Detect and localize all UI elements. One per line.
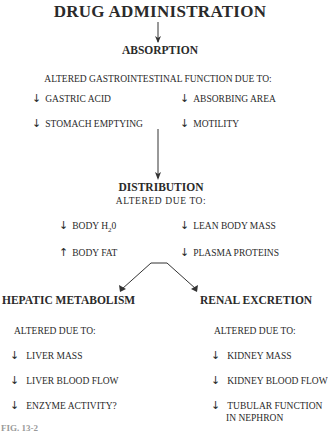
absorption-item: ↓ABSORBING AREA xyxy=(180,92,276,105)
down-arrow-icon: ↓ xyxy=(211,399,220,412)
renal-item: ↓KIDNEY BLOOD FLOW xyxy=(211,374,328,387)
renal-item: ↓TUBULAR FUNCTION xyxy=(211,399,322,412)
renal-heading: RENAL EXCRETION xyxy=(200,294,312,306)
distribution-subheading: ALTERED DUE TO: xyxy=(116,196,207,206)
diagram-title: DRUG ADMINISTRATION xyxy=(54,2,267,22)
hepatic-item: ↓LIVER MASS xyxy=(10,349,82,362)
absorption-item: ↓GASTRIC ACID xyxy=(32,92,111,105)
renal-item: ↓KIDNEY MASS xyxy=(211,349,292,362)
down-arrow-icon: ↓ xyxy=(180,117,189,130)
hepatic-item: ↓ENZYME ACTIVITY? xyxy=(10,399,117,412)
distribution-item: ↓BODY H20 xyxy=(59,219,116,234)
down-arrow-icon: ↓ xyxy=(59,219,68,232)
absorption-subheading: ALTERED GASTROINTESTINAL FUNCTION DUE TO… xyxy=(44,74,271,84)
hepatic-heading: HEPATIC METABOLISM xyxy=(2,294,135,306)
down-arrow-icon: ↓ xyxy=(32,92,41,105)
split-connector xyxy=(122,263,196,289)
down-arrow-icon: ↓ xyxy=(180,246,189,259)
down-arrow-icon: ↓ xyxy=(10,349,19,362)
renal-subheading: ALTERED DUE TO: xyxy=(214,326,296,336)
absorption-item: ↓STOMACH EMPTYING xyxy=(32,117,143,130)
distribution-item: ↓LEAN BODY MASS xyxy=(180,219,276,232)
absorption-heading: ABSORPTION xyxy=(122,44,198,56)
absorption-item: ↓MOTILITY xyxy=(180,117,239,130)
renal-item-continuation: IN NEPHRON xyxy=(226,413,283,423)
down-arrow-icon: ↓ xyxy=(180,219,189,232)
up-arrow-icon: ↑ xyxy=(59,246,68,259)
down-arrow-icon: ↓ xyxy=(10,374,19,387)
down-arrow-icon: ↓ xyxy=(211,374,220,387)
down-arrow-icon: ↓ xyxy=(10,399,19,412)
hepatic-subheading: ALTERED DUE TO: xyxy=(14,326,96,336)
distribution-heading: DISTRIBUTION xyxy=(119,181,204,193)
down-arrow-icon: ↓ xyxy=(211,349,220,362)
down-arrow-icon: ↓ xyxy=(180,92,189,105)
figure-caption: FIG. 13-2 xyxy=(1,423,38,433)
down-arrow-icon: ↓ xyxy=(32,117,41,130)
distribution-item: ↓PLASMA PROTEINS xyxy=(180,246,279,259)
hepatic-item: ↓LIVER BLOOD FLOW xyxy=(10,374,119,387)
distribution-item: ↑BODY FAT xyxy=(59,246,117,259)
